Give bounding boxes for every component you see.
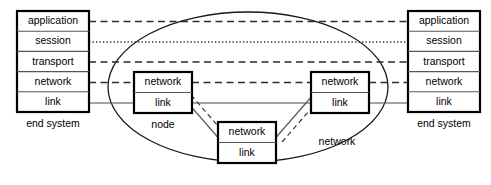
node-bottom-layer-network: network bbox=[229, 125, 267, 137]
node-bottom: network link bbox=[218, 122, 276, 163]
node-left-layer-link: link bbox=[155, 96, 172, 108]
right-end-system-caption: end system bbox=[417, 117, 471, 129]
node-right-layer-link: link bbox=[332, 96, 349, 108]
node-right-layer-network: network bbox=[322, 75, 360, 87]
left-end-system-stack: application session transport network li… bbox=[17, 11, 89, 129]
right-layer-application: application bbox=[419, 14, 469, 26]
network-cloud-label: network bbox=[319, 135, 357, 147]
left-layer-link: link bbox=[45, 95, 62, 107]
node-right: network link bbox=[311, 72, 369, 113]
left-layer-transport: transport bbox=[32, 55, 74, 67]
node-left-caption: node bbox=[151, 118, 175, 130]
left-layer-session: session bbox=[35, 34, 71, 46]
diagram-canvas: application session transport network li… bbox=[0, 0, 491, 185]
right-layer-session: session bbox=[426, 34, 462, 46]
network-layers-diagram: application session transport network li… bbox=[0, 0, 491, 185]
left-layer-application: application bbox=[28, 14, 78, 26]
node-left: network link node bbox=[134, 72, 192, 130]
right-end-system-stack: application session transport network li… bbox=[408, 11, 480, 129]
left-end-system-caption: end system bbox=[26, 117, 80, 129]
node-bottom-layer-link: link bbox=[239, 146, 256, 158]
right-layer-transport: transport bbox=[423, 55, 465, 67]
right-layer-link: link bbox=[436, 95, 453, 107]
diagonal-link-bottom-right bbox=[272, 95, 313, 142]
left-layer-network: network bbox=[35, 75, 73, 87]
node-left-layer-network: network bbox=[145, 75, 183, 87]
right-layer-network: network bbox=[426, 75, 464, 87]
